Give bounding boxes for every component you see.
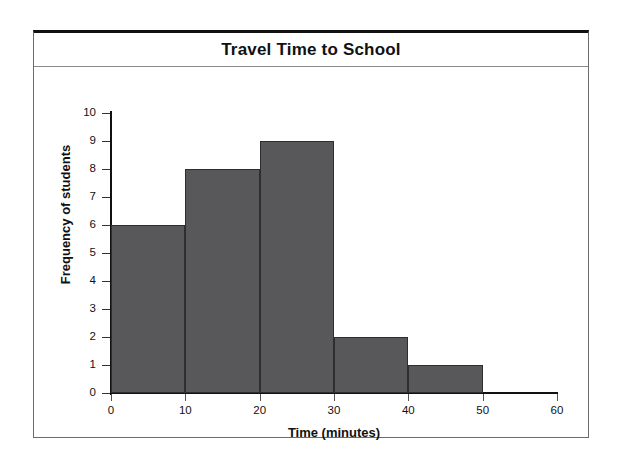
x-axis-label: Time (minutes) — [110, 425, 558, 440]
chart-title-band: Travel Time to School — [34, 33, 588, 67]
histogram-bars — [34, 67, 588, 437]
histogram-bar — [334, 337, 408, 393]
histogram-bar — [185, 169, 259, 393]
figure-frame: Travel Time to School 012345678910 01020… — [33, 30, 589, 438]
histogram-bar — [408, 365, 482, 393]
histogram-bar — [260, 141, 334, 393]
plot-area: 012345678910 0102030405060 Time (minutes… — [34, 67, 588, 437]
page-title: Travel Time to School — [221, 40, 401, 60]
y-axis-label: Frequency of students — [58, 120, 73, 310]
histogram-bar — [111, 225, 185, 393]
